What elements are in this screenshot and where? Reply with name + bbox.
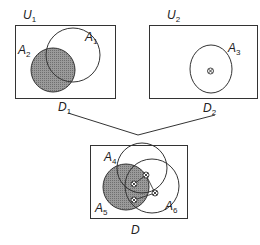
universe-u2-label: U2: [167, 9, 180, 24]
set-a6-label: A6: [165, 200, 177, 215]
set-a2-circle: [31, 48, 75, 92]
point-marker-icon: [131, 181, 137, 187]
point-marker-icon: [152, 190, 158, 196]
venn-composition-diagram: U1 A1 A2 D1 U2 A3 D2 A4 A5 A6 D: [0, 0, 260, 245]
set-a2-label: A2: [18, 44, 30, 59]
domain-d2-label: D2: [203, 102, 216, 117]
point-marker-icon: [143, 172, 149, 178]
set-a1-label: A1: [85, 31, 97, 46]
domain-d-label: D: [131, 224, 140, 236]
domain-d1-label: D1: [58, 101, 71, 116]
diagram-graphics: [0, 0, 260, 245]
composition-connector: [68, 113, 215, 135]
point-marker-icon: [208, 68, 214, 74]
universe-u2-box: [150, 26, 258, 99]
point-marker-icon: [131, 197, 137, 203]
set-a4-label: A4: [104, 151, 116, 166]
set-a3-label: A3: [228, 42, 240, 57]
universe-u1-label: U1: [23, 9, 36, 24]
set-a5-label: A5: [95, 202, 107, 217]
